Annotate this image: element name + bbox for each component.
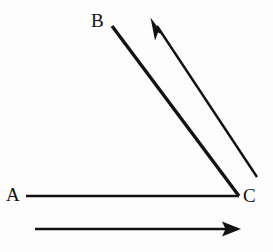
vertex-label-a: A (6, 185, 20, 204)
segment-CB (112, 26, 239, 196)
geometry-figure: A B C (0, 0, 273, 252)
geometry-canvas (0, 0, 273, 252)
arrow-parallel-to-AC (35, 222, 241, 237)
arrow-cb-head (151, 18, 164, 41)
vertex-label-b: B (91, 11, 104, 30)
vertex-label-c: C (243, 186, 256, 205)
